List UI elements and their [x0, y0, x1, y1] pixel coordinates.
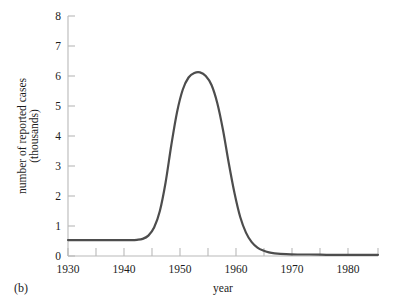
y-tick-label-8: 8	[55, 10, 61, 22]
x-tick-label-1950: 1950	[169, 263, 192, 275]
epidemic-curve	[68, 72, 378, 255]
line-chart: 0 1 2 3 4 5 6 7 8 1930 1940 1950 1960 19…	[0, 0, 396, 308]
y-tick-label-6: 6	[55, 70, 61, 82]
y-tick-label-1: 1	[55, 220, 61, 232]
y-tick-label-7: 7	[55, 40, 61, 52]
y-tick-label-4: 4	[55, 130, 61, 142]
y-axis-title-line2: (thousands)	[28, 109, 41, 163]
y-tick-label-0: 0	[55, 250, 61, 262]
y-tick-label-2: 2	[55, 190, 61, 202]
figure-panel: 0 1 2 3 4 5 6 7 8 1930 1940 1950 1960 19…	[0, 0, 396, 308]
x-tick-label-1930: 1930	[57, 263, 80, 275]
x-tick-label-1960: 1960	[225, 263, 248, 275]
y-axis-ticks	[68, 16, 75, 256]
y-tick-label-3: 3	[55, 160, 61, 172]
panel-label: (b)	[14, 281, 28, 295]
x-tick-label-1980: 1980	[337, 263, 360, 275]
x-tick-label-1970: 1970	[281, 263, 304, 275]
y-tick-label-5: 5	[55, 100, 61, 112]
x-axis-title: year	[213, 282, 233, 295]
x-tick-label-1940: 1940	[113, 263, 136, 275]
